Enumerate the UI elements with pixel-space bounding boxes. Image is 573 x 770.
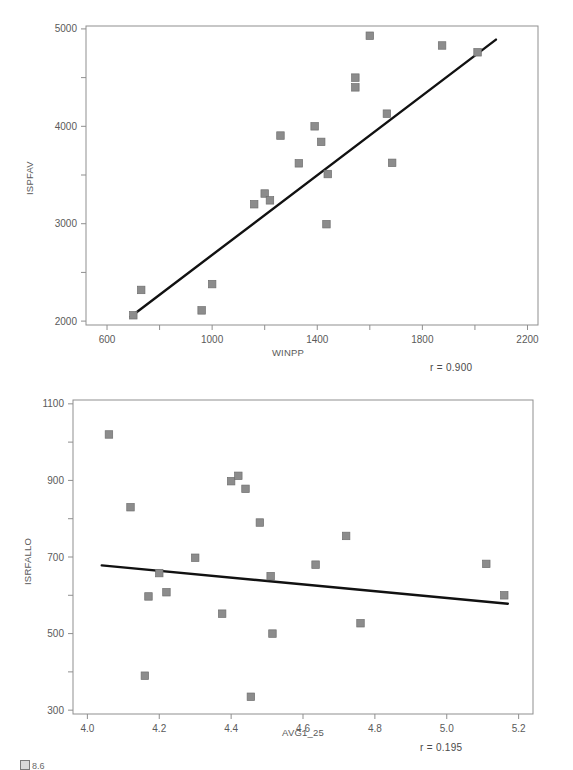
x-tick-label: 5.2 [512, 723, 526, 734]
data-point-marker [218, 610, 226, 618]
scatter-chart-isrfallo-avg125: 4.04.24.44.64.85.05.23005007009001100 IS… [0, 385, 573, 770]
data-point-marker [156, 569, 164, 577]
y-tick-label: 4000 [55, 121, 78, 132]
y-axis-label-bottom: ISRFALLO [22, 538, 33, 585]
x-tick-label: 5.0 [440, 723, 454, 734]
x-tick-label: 4.2 [152, 723, 166, 734]
figure-caption-text: 8.6 [32, 761, 45, 770]
data-point-marker [261, 190, 269, 198]
y-tick-label: 2000 [55, 316, 78, 327]
data-point-marker [483, 560, 491, 568]
plot-frame [86, 26, 538, 325]
y-tick-label: 700 [47, 552, 64, 563]
data-point-marker [250, 200, 257, 208]
data-point-marker [266, 197, 274, 205]
data-point-marker [323, 220, 331, 228]
y-axis-label-top: ISPFAV [24, 161, 35, 195]
data-point-marker [352, 74, 360, 82]
y-tick-label: 300 [47, 705, 64, 716]
data-point-marker [295, 160, 303, 168]
data-point-marker [130, 312, 138, 320]
correlation-annotation-bottom: r = 0.195 [420, 742, 462, 753]
data-point-marker [317, 138, 325, 146]
x-tick-label: 1800 [411, 334, 434, 345]
figure-box-icon [20, 760, 30, 770]
data-point-marker [438, 42, 446, 50]
x-tick-label: 4.4 [224, 723, 238, 734]
x-axis-label-top: WINPP [272, 347, 304, 358]
data-point-marker [277, 132, 285, 140]
bottom-chart-canvas: 4.04.24.44.64.85.05.23005007009001100 [0, 385, 573, 770]
y-tick-label: 900 [47, 475, 64, 486]
data-point-marker [141, 672, 149, 680]
x-tick-label: 4.0 [80, 723, 94, 734]
data-point-marker [191, 554, 199, 562]
data-point-marker [311, 123, 319, 131]
y-tick-label: 500 [47, 628, 64, 639]
data-point-marker [137, 286, 145, 294]
plot-frame [73, 400, 533, 714]
data-point-marker [198, 307, 206, 315]
data-point-marker [256, 519, 264, 527]
data-point-marker [352, 84, 360, 92]
data-point-marker [501, 592, 509, 600]
data-point-marker [145, 593, 153, 601]
x-tick-label: 4.8 [368, 723, 382, 734]
data-point-marker [267, 572, 275, 580]
data-point-marker [357, 619, 365, 627]
data-point-marker [269, 630, 277, 638]
scatter-chart-ispfav-winpp: 60010001400180022002000300040005000 ISPF… [0, 0, 573, 385]
y-tick-label: 3000 [55, 218, 78, 229]
data-point-marker [388, 159, 396, 167]
data-point-marker [474, 49, 482, 57]
y-tick-label: 5000 [55, 23, 78, 34]
data-point-marker [105, 431, 113, 439]
data-point-marker [324, 170, 332, 178]
data-point-marker [383, 110, 391, 118]
top-chart-canvas: 60010001400180022002000300040005000 [0, 0, 573, 385]
data-point-marker [127, 503, 135, 511]
data-point-marker [242, 485, 250, 493]
x-tick-label: 600 [99, 334, 116, 345]
data-point-marker [342, 532, 350, 540]
data-point-marker [227, 477, 235, 485]
x-tick-label: 2200 [516, 334, 539, 345]
data-point-marker [235, 472, 243, 480]
data-point-marker [163, 588, 171, 596]
x-axis-label-bottom: AVG1_25 [282, 727, 324, 738]
data-point-marker [312, 561, 320, 569]
data-point-marker [366, 32, 374, 40]
x-tick-label: 1400 [306, 334, 329, 345]
y-tick-label: 1100 [42, 398, 64, 409]
figure-caption: 8.6 [20, 760, 45, 770]
regression-line [131, 40, 496, 317]
correlation-annotation-top: r = 0.900 [430, 362, 472, 373]
x-tick-label: 1000 [201, 334, 224, 345]
data-point-marker [208, 280, 216, 288]
figure-page: 60010001400180022002000300040005000 ISPF… [0, 0, 573, 770]
data-point-marker [247, 693, 255, 701]
